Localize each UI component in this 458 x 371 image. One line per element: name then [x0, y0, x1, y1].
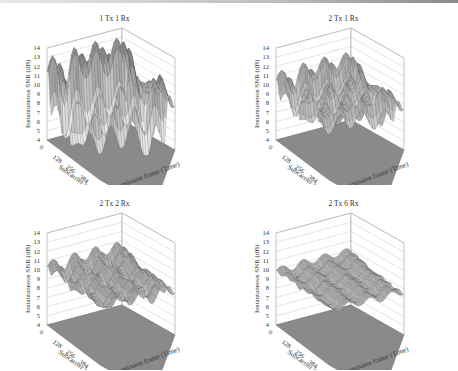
z-tick-label: 14: [34, 229, 41, 236]
chart-panel-3: 2 Tx 2 Rx4567891011121314012825638451225…: [0, 185, 229, 370]
z-tick-label: 7: [37, 294, 41, 301]
z-tick-label: 6: [266, 303, 270, 310]
z-tick-label: 10: [263, 81, 270, 88]
z-tick-label: 8: [266, 284, 269, 291]
z-tick-label: 10: [34, 81, 41, 88]
z-tick-label: 9: [37, 90, 40, 97]
surface-plot: 4567891011121314012825638451225507510012…: [229, 0, 458, 185]
z-tick-label: 6: [37, 118, 41, 125]
z-tick-label: 13: [34, 53, 41, 60]
z-tick-label: 9: [37, 275, 40, 282]
surface-plot: 4567891011121314012825638451225507510012…: [0, 185, 229, 370]
z-tick-label: 12: [263, 248, 270, 255]
z-tick-label: 6: [37, 303, 41, 310]
x-tick-label: 0: [38, 143, 45, 151]
z-tick-label: 13: [263, 238, 270, 245]
z-tick-label: 13: [34, 238, 41, 245]
z-tick-label: 11: [263, 72, 269, 79]
z-tick-label: 14: [34, 44, 41, 51]
z-tick-label: 9: [266, 90, 269, 97]
z-tick-label: 7: [266, 294, 270, 301]
z-tick-label: 7: [266, 109, 270, 116]
z-tick-label: 10: [263, 266, 270, 273]
z-tick-label: 9: [266, 275, 269, 282]
z-tick-label: 5: [266, 312, 269, 319]
z-tick-label: 4: [37, 321, 41, 328]
z-tick-label: 11: [263, 257, 269, 264]
z-axis-label: Instantaneous SNR (dB): [253, 60, 261, 128]
z-tick-label: 13: [263, 53, 270, 60]
z-tick-label: 6: [266, 118, 270, 125]
z-tick-label: 4: [266, 321, 270, 328]
surface-plot: 4567891011121314012825638451225507510012…: [229, 185, 458, 370]
z-tick-label: 5: [266, 127, 269, 134]
z-axis-label: Instantaneous SNR (dB): [24, 60, 32, 128]
z-tick-label: 4: [37, 136, 41, 143]
z-tick-label: 5: [37, 312, 40, 319]
z-axis-label: Instantaneous SNR (dB): [24, 245, 32, 313]
surface-plot: 4567891011121314012825638451225507510012…: [0, 0, 229, 185]
z-tick-label: 4: [266, 136, 270, 143]
z-tick-label: 8: [37, 99, 40, 106]
z-tick-label: 10: [34, 266, 41, 273]
chart-panel-2: 2 Tx 1 Rx4567891011121314012825638451225…: [229, 0, 458, 185]
chart-panel-4: 2 Tx 6 Rx4567891011121314012825638451225…: [229, 185, 458, 370]
z-tick-label: 8: [266, 99, 269, 106]
z-tick-label: 12: [263, 63, 270, 70]
x-tick-label: 0: [267, 328, 274, 336]
z-tick-label: 12: [34, 248, 41, 255]
z-tick-label: 14: [263, 229, 270, 236]
x-tick-label: 0: [38, 328, 45, 336]
z-tick-label: 7: [37, 109, 41, 116]
x-tick-label: 0: [267, 143, 274, 151]
z-tick-label: 12: [34, 63, 41, 70]
z-tick-label: 8: [37, 284, 40, 291]
chart-panel-1: 1 Tx 1 Rx4567891011121314012825638451225…: [0, 0, 229, 185]
z-tick-label: 11: [34, 72, 40, 79]
z-tick-label: 14: [263, 44, 270, 51]
z-tick-label: 11: [34, 257, 40, 264]
z-axis-label: Instantaneous SNR (dB): [253, 245, 261, 313]
z-tick-label: 5: [37, 127, 40, 134]
